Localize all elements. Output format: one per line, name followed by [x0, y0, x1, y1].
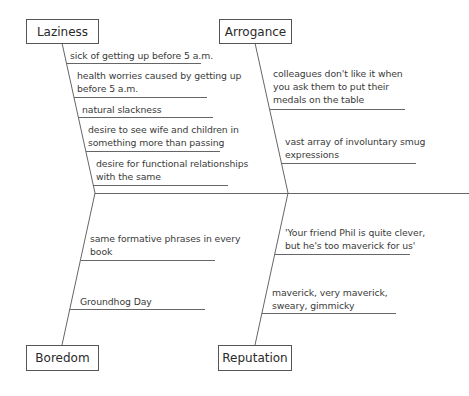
category-label: Laziness	[37, 25, 88, 39]
category-arrogance: Arrogance	[219, 19, 292, 44]
reputation-bone	[255, 193, 288, 345]
cause-laziness-2: health worries caused by getting up befo…	[77, 69, 241, 95]
cause-laziness-5: desire for functional relationships with…	[96, 157, 248, 183]
category-label: Arrogance	[225, 25, 287, 39]
cause-boredom-1: same formative phrases in every book	[90, 232, 240, 258]
cause-reputation-2: maverick, very maverick, sweary, gimmick…	[272, 286, 388, 312]
cause-reputation-1: 'Your friend Phil is quite clever, but h…	[285, 226, 425, 252]
category-laziness: Laziness	[26, 19, 99, 44]
cause-laziness-3: natural slackness	[82, 103, 161, 116]
cause-laziness-1: sick of getting up before 5 a.m.	[70, 49, 213, 62]
boredom-bone	[62, 193, 95, 345]
cause-boredom-2: Groundhog Day	[80, 295, 152, 308]
cause-laziness-4: desire to see wife and children in somet…	[88, 123, 239, 149]
category-label: Reputation	[222, 351, 287, 365]
category-label: Boredom	[35, 351, 89, 365]
arrogance-bone	[255, 43, 288, 193]
category-reputation: Reputation	[218, 345, 292, 371]
cause-arrogance-1: colleagues don't like it when you ask th…	[273, 67, 403, 106]
cause-arrogance-2: vast array of involuntary smug expressio…	[285, 135, 425, 161]
category-boredom: Boredom	[26, 345, 99, 371]
